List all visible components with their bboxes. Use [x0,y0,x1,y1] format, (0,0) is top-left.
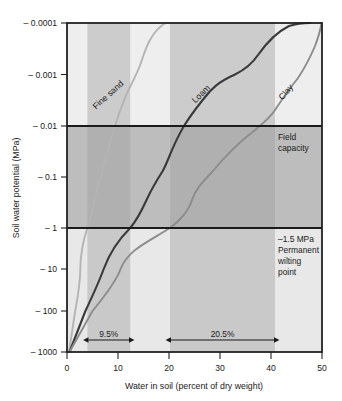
x-axis-title: Water in soil (percent of dry weight) [125,381,263,391]
y-tick-label: – 0.001 [28,70,57,80]
wilting-label-line1: –1.5 MPa [278,234,314,244]
y-axis-title: Soil water potential (MPa) [11,138,21,239]
sand-available-water-band [87,23,130,352]
wilting-label-line4: point [278,267,297,277]
chart-canvas: – 0.0001 – 0.001 – 0.01 – 0.1 – 1 – 10 –… [0,0,342,401]
x-tick-label: 30 [215,363,225,373]
x-tick-label: 40 [266,363,276,373]
x-tick-label: 10 [113,363,123,373]
field-capacity-label-line2: capacity [278,143,310,153]
x-tick-label: 50 [317,363,327,373]
x-tick-label: 20 [164,363,174,373]
field-capacity-label-line1: Field [278,132,296,142]
y-axis-tick-labels: – 0.0001 – 0.001 – 0.01 – 0.1 – 1 – 10 –… [24,18,58,357]
y-tick-label: – 100 [35,306,57,316]
x-axis-tick-labels: 0 10 20 30 40 50 [65,363,327,373]
y-tick-label: – 0.0001 [24,18,58,28]
x-axis-ticks [67,352,322,359]
clay-range-label: 20.5% [211,329,235,339]
x-tick-label: 0 [65,363,70,373]
y-tick-label: – 1000 [31,347,58,357]
wilting-label-line3: wilting [277,256,302,266]
y-tick-label: – 1 [45,223,57,233]
sand-range-label: 9.5% [99,329,119,339]
soil-water-retention-figure: – 0.0001 – 0.001 – 0.01 – 0.1 – 1 – 10 –… [0,0,342,401]
y-tick-label: – 10 [40,264,57,274]
clay-available-water-band [170,23,275,352]
y-tick-label: – 0.01 [33,121,57,131]
wilting-label-line2: Permanent [278,245,320,255]
y-tick-label: – 0.1 [38,172,57,182]
